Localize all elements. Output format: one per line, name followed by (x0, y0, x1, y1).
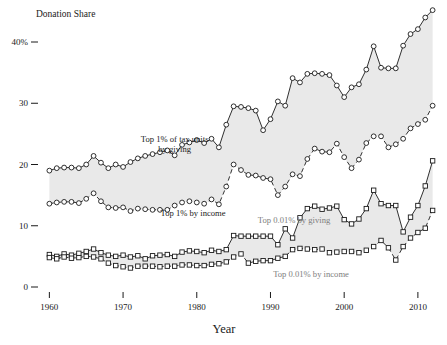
data-point-marker (216, 145, 221, 150)
data-point-marker (209, 136, 214, 141)
donation-share-line-chart: 40%3020100196019701980199020002010Donati… (0, 0, 447, 345)
top001-income-label: Top 0.01% by income (273, 269, 349, 279)
data-point-marker (239, 252, 243, 256)
data-point-marker (99, 257, 103, 261)
data-point-marker (76, 166, 81, 171)
shaded-bands (49, 10, 432, 268)
data-point-marker (320, 71, 325, 76)
data-point-marker (364, 67, 369, 72)
data-point-marker (364, 248, 368, 252)
data-point-marker (253, 173, 258, 178)
data-point-marker (84, 162, 89, 167)
data-point-marker (423, 117, 428, 122)
data-point-marker (327, 73, 332, 78)
data-point-marker (393, 66, 398, 71)
data-point-marker (91, 191, 96, 196)
data-point-marker (69, 165, 74, 170)
data-point-marker (113, 206, 118, 211)
data-point-marker (113, 162, 118, 167)
data-point-marker (349, 249, 353, 253)
data-point-marker (312, 71, 317, 76)
data-point-marker (165, 252, 169, 256)
y-tick-label: 0 (24, 282, 29, 292)
x-tick-label: 1980 (188, 302, 207, 312)
data-point-marker (150, 264, 154, 268)
data-point-marker (313, 247, 317, 251)
data-point-marker (305, 247, 309, 251)
data-point-marker (172, 264, 176, 268)
chart-figure: 40%3020100196019701980199020002010Donati… (0, 0, 447, 345)
data-point-marker (135, 206, 140, 211)
data-point-marker (393, 142, 398, 147)
data-point-marker (84, 254, 88, 258)
data-point-marker (99, 251, 103, 255)
data-point-marker (246, 173, 251, 178)
data-point-marker (224, 184, 229, 189)
data-point-marker (62, 199, 67, 204)
data-point-marker (349, 85, 354, 90)
data-point-marker (342, 217, 346, 221)
data-point-marker (202, 251, 206, 255)
data-point-marker (386, 203, 390, 207)
data-point-marker (342, 249, 346, 253)
band-top1 (49, 10, 432, 211)
data-point-marker (334, 141, 339, 146)
data-point-marker (401, 230, 405, 234)
data-point-marker (415, 122, 420, 127)
data-point-marker (158, 253, 162, 257)
data-point-marker (283, 103, 288, 108)
data-point-marker (305, 157, 310, 162)
data-point-marker (261, 128, 266, 133)
data-point-marker (364, 206, 368, 210)
data-point-marker (121, 205, 126, 210)
data-point-marker (408, 215, 412, 219)
data-point-marker (283, 184, 288, 189)
data-point-marker (283, 227, 287, 231)
data-point-marker (128, 160, 133, 165)
data-point-marker (106, 253, 110, 257)
data-point-marker (313, 204, 317, 208)
y-tick-label: 40% (12, 37, 29, 47)
data-point-marker (91, 154, 96, 159)
data-point-marker (224, 247, 228, 251)
data-point-marker (187, 249, 191, 253)
data-point-marker (246, 234, 250, 238)
data-point-marker (84, 196, 89, 201)
data-point-marker (136, 264, 140, 268)
data-point-marker (415, 27, 420, 32)
data-point-marker (379, 134, 384, 139)
data-point-marker (342, 95, 347, 100)
data-point-marker (290, 247, 294, 251)
data-point-marker (216, 202, 221, 207)
data-point-marker (379, 65, 384, 70)
data-point-marker (327, 206, 331, 210)
data-point-marker (349, 166, 354, 171)
data-point-marker (261, 234, 265, 238)
data-point-marker (246, 261, 250, 265)
data-point-marker (180, 200, 185, 205)
data-point-marker (386, 145, 391, 150)
data-point-marker (209, 248, 213, 252)
data-point-marker (305, 71, 310, 76)
data-point-marker (394, 258, 398, 262)
data-point-marker (239, 168, 244, 173)
data-point-marker (298, 174, 303, 179)
data-point-marker (99, 199, 104, 204)
data-point-marker (408, 236, 412, 240)
data-point-marker (268, 177, 273, 182)
data-point-marker (231, 233, 235, 237)
data-point-marker (371, 44, 376, 49)
data-point-marker (47, 201, 52, 206)
data-point-marker (114, 263, 118, 267)
data-point-marker (290, 172, 295, 177)
data-point-marker (202, 263, 206, 267)
data-point-marker (357, 217, 361, 221)
data-point-marker (334, 83, 339, 88)
data-point-marker (335, 204, 339, 208)
data-point-marker (379, 202, 383, 206)
data-point-marker (349, 222, 353, 226)
data-point-marker (143, 207, 148, 212)
data-point-marker (55, 257, 59, 261)
data-point-marker (254, 259, 258, 263)
data-point-marker (62, 255, 66, 259)
